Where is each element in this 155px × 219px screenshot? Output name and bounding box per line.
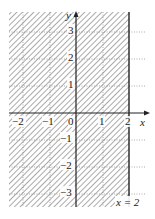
x-tick-neg2: −2 <box>12 115 24 127</box>
x-tick-2: 2 <box>125 115 131 127</box>
y-tick-2: 2 <box>68 51 74 63</box>
x-axis-label: x <box>139 116 145 128</box>
y-tick-neg1: −1 <box>60 132 72 144</box>
y-axis-label: y <box>65 9 71 21</box>
y-tick-neg2: −2 <box>60 159 72 171</box>
y-tick-1: 1 <box>68 78 74 90</box>
y-tick-3: 3 <box>68 24 74 36</box>
origin-label: 0 <box>68 115 74 127</box>
boundary-label: x = 2 <box>115 196 140 208</box>
x-tick-neg1: −1 <box>42 115 54 127</box>
shaded-region <box>9 12 129 207</box>
x-tick-1: 1 <box>99 115 105 127</box>
x-axis-arrow-icon <box>144 111 150 116</box>
y-tick-neg3: −3 <box>60 186 72 198</box>
coordinate-plane: y x −2 −1 0 1 2 3 2 1 −1 −2 −3 x = 2 <box>0 0 155 219</box>
